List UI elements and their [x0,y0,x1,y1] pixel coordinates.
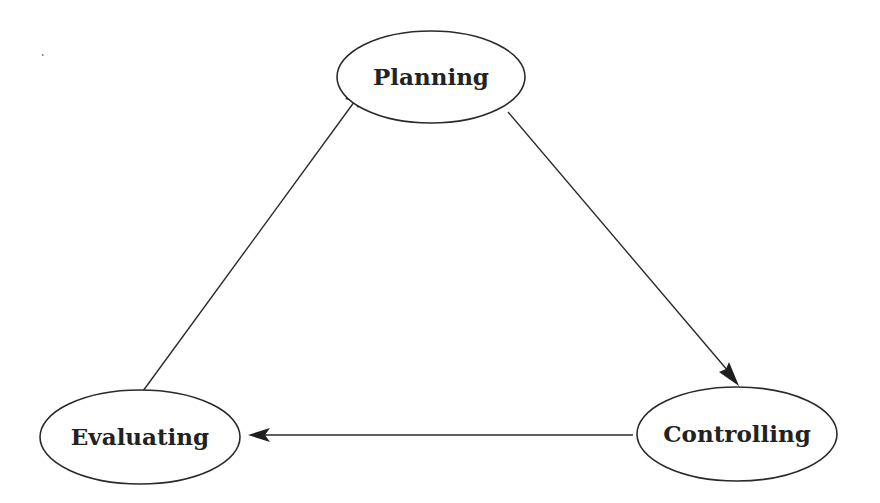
edge-controlling-to-evaluating [248,428,633,442]
evaluating-label: Evaluating [71,423,209,450]
node-controlling: Controlling [637,387,837,481]
node-planning: Planning [337,31,525,123]
controlling-label: Controlling [663,420,810,447]
planning-label: Planning [373,63,489,90]
planning-cycle-diagram: Planning Controlling Evaluating [0,0,880,503]
node-evaluating: Evaluating [40,390,240,484]
edge-evaluating-to-planning [143,86,364,391]
arrowhead-icon [719,362,739,386]
edge-planning-to-controlling [508,112,739,386]
scan-speck [42,54,44,56]
